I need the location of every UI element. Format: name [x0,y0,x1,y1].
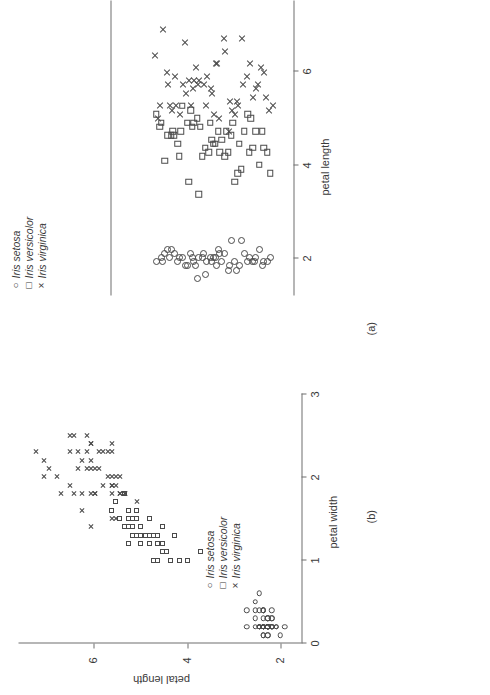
data-point-square [172,532,177,537]
data-point-square [229,119,236,126]
data-point-cross [83,448,89,454]
data-point-cross [238,80,246,88]
data-point-cross [162,68,170,76]
data-point-circle [252,615,258,621]
data-point-square [125,541,130,546]
panel-b-y-axis [18,642,301,643]
data-point-square [252,127,259,134]
panel-b-label: (b) [364,510,376,523]
data-point-cross [232,97,240,105]
data-point-cross [57,490,63,496]
data-point-cross [32,448,38,454]
data-point-square [184,119,191,126]
data-point-cross [83,432,89,438]
data-point-square [113,499,118,504]
data-point-cross [78,457,84,463]
data-point-circle [243,607,249,613]
data-point-cross [245,59,253,67]
data-point-cross [108,515,114,521]
data-point-cross [108,440,114,446]
data-point-cross [170,72,178,80]
panel-b-y-axis-title: petal length [133,674,190,686]
data-point-cross [108,490,114,496]
data-point-cross [201,101,209,109]
data-point-square [174,140,181,147]
data-point-square [206,119,213,126]
data-point-cross [261,93,269,101]
data-point-square [215,127,222,134]
legend-label: Iris versicolor [22,216,34,278]
data-point-circle [200,249,207,256]
data-point-cross [45,465,51,471]
panel-a-x-tick-label: 6 [300,68,312,74]
panel-b-x-tick [301,559,306,560]
data-point-circle [227,237,234,244]
panel-a-x-axis [293,0,294,295]
data-point-square [156,123,163,130]
data-point-cross [211,59,219,67]
data-point-circle [255,245,262,252]
cross-marker-icon: × [34,279,47,291]
data-point-cross [91,490,97,496]
panel-b-x-axis-title: petal width [326,495,338,548]
data-point-square [247,115,254,122]
legend-label: Iris virginica [35,223,47,278]
data-point-square [231,178,238,185]
data-point-circle [193,275,200,282]
data-point-cross [180,38,188,46]
data-point-cross [74,448,80,454]
figure-canvas: ○ Iris setosa □ Iris versicolor × Iris v… [0,0,490,695]
data-point-square [234,170,241,177]
data-point-square [130,524,135,529]
data-point-square [190,119,197,126]
data-point-square [175,153,182,160]
data-point-square [218,136,225,143]
data-point-circle [216,249,223,256]
panel-a-x-tick-label: 2 [300,255,312,261]
data-point-cross [66,432,72,438]
data-point-square [177,127,184,134]
panel-b-plot-area [18,393,301,643]
data-point-cross [189,76,197,84]
data-point-circle [190,258,197,265]
data-point-cross [112,482,118,488]
data-point-square [125,507,130,512]
panel-b-y-tick-label: 2 [273,657,285,663]
square-marker-icon: □ [21,279,34,291]
data-point-square [121,524,126,529]
panel-a-plot-area [110,0,293,295]
panel-a-x-tick [293,257,298,258]
data-point-cross [74,465,80,471]
data-point-cross [95,448,101,454]
panel-b-y-tick-label: 6 [86,657,98,663]
data-point-cross [214,114,222,122]
data-point-square [195,191,202,198]
panel-b-y-tick [280,643,281,648]
data-point-cross [191,63,199,71]
data-point-cross [237,34,245,42]
panel-a-label: (a) [364,322,376,335]
data-point-square [205,148,212,155]
data-point-circle [264,624,270,630]
data-point-cross [150,51,158,59]
panel-b-y-tick [187,643,188,648]
panel-a-strip-plot: ○ Iris setosa □ Iris versicolor × Iris v… [0,0,490,347]
data-point-cross [178,80,186,88]
data-point-circle [264,632,270,638]
data-point-cross [155,101,163,109]
data-point-square [168,557,173,562]
data-point-square [134,507,139,512]
panel-b-y-tick [93,643,94,648]
data-point-cross [219,34,227,42]
data-point-circle [226,262,233,269]
data-point-circle [208,258,215,265]
data-point-square [138,541,143,546]
data-point-square [134,516,139,521]
data-point-square [167,132,174,139]
data-point-circle [164,245,171,252]
data-point-circle [269,607,275,613]
data-point-cross [181,89,189,97]
panel-b-x-tick-label: 0 [308,640,320,646]
data-point-circle [258,262,265,269]
data-point-square [155,541,160,546]
